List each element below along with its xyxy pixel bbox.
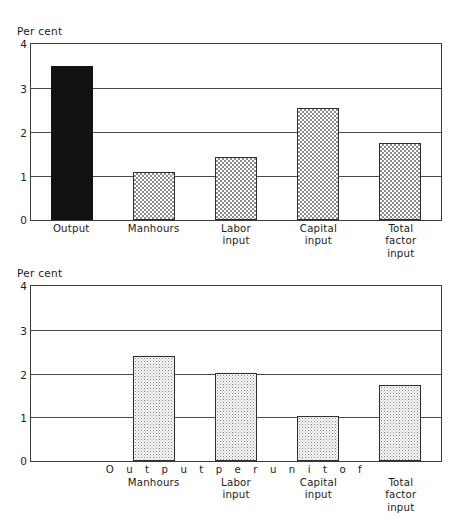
ytick-4: 4 bbox=[20, 39, 27, 50]
bar-output bbox=[51, 66, 94, 220]
chart-page: Per cent 4 3 2 1 0 OutputManhoursLaborin… bbox=[0, 0, 462, 519]
bar-total-factor-input bbox=[379, 143, 422, 220]
x-label-line: Total bbox=[360, 477, 442, 489]
ytick-0: 0 bbox=[20, 456, 27, 467]
bars-top bbox=[31, 44, 441, 220]
x-label-line: Capital bbox=[277, 477, 359, 489]
x-label-line: input bbox=[277, 235, 359, 247]
ytick-2: 2 bbox=[20, 369, 27, 380]
x-label-line: Labor bbox=[195, 477, 277, 489]
y-axis-title-bottom: Per cent bbox=[17, 267, 62, 279]
x-label-line: input bbox=[195, 489, 277, 501]
x-label-line: input bbox=[277, 489, 359, 501]
x-label-total-factor-input: Totalfactorinput bbox=[360, 477, 442, 514]
x-label-line: Manhours bbox=[112, 223, 194, 235]
y-axis-title-top: Per cent bbox=[17, 25, 62, 37]
x-label-output: Output bbox=[30, 223, 112, 235]
bar-manhours bbox=[133, 356, 176, 461]
x-label-manhours: Manhours bbox=[112, 477, 194, 489]
x-axis-labels-bottom: ManhoursLaborinputCapitalinputTotalfacto… bbox=[30, 477, 442, 519]
chart-top: Per cent 4 3 2 1 0 OutputManhoursLaborin… bbox=[0, 0, 462, 262]
x-label-line: Total bbox=[360, 223, 442, 235]
x-label-line: Labor bbox=[195, 223, 277, 235]
plot-area-top: 4 3 2 1 0 bbox=[30, 43, 442, 221]
ytick-4: 4 bbox=[20, 281, 27, 292]
x-label-labor-input: Laborinput bbox=[195, 223, 277, 248]
bar-capital-input bbox=[297, 416, 340, 461]
x-label-capital-input: Capitalinput bbox=[277, 223, 359, 248]
bar-labor-input bbox=[215, 157, 258, 220]
ytick-1: 1 bbox=[20, 172, 27, 183]
ytick-0: 0 bbox=[20, 215, 27, 226]
x-label-line: input bbox=[360, 502, 442, 514]
bar-capital-input bbox=[297, 108, 340, 220]
x-axis-group-title: O u t p u t p e r u n i t o f bbox=[30, 464, 442, 476]
x-label-line: Manhours bbox=[112, 477, 194, 489]
x-label-line: factor bbox=[360, 235, 442, 247]
bar-manhours bbox=[133, 172, 176, 220]
bar-labor-input bbox=[215, 373, 258, 461]
chart-bottom: Per cent 4 3 2 1 0 O u t p u t p e r u n… bbox=[0, 258, 462, 519]
x-label-line: Output bbox=[30, 223, 112, 235]
ytick-2: 2 bbox=[20, 128, 27, 139]
bar-total-factor-input bbox=[379, 385, 422, 461]
ytick-3: 3 bbox=[20, 326, 27, 337]
x-label-total-factor-input: Totalfactorinput bbox=[360, 223, 442, 260]
x-label-line: factor bbox=[360, 489, 442, 501]
x-label-line: input bbox=[195, 235, 277, 247]
plot-area-bottom: 4 3 2 1 0 bbox=[30, 285, 442, 462]
ytick-3: 3 bbox=[20, 84, 27, 95]
x-label-line: Capital bbox=[277, 223, 359, 235]
bars-bottom bbox=[31, 286, 441, 461]
ytick-1: 1 bbox=[20, 413, 27, 424]
x-label-manhours: Manhours bbox=[112, 223, 194, 235]
x-label-capital-input: Capitalinput bbox=[277, 477, 359, 502]
x-label-labor-input: Laborinput bbox=[195, 477, 277, 502]
